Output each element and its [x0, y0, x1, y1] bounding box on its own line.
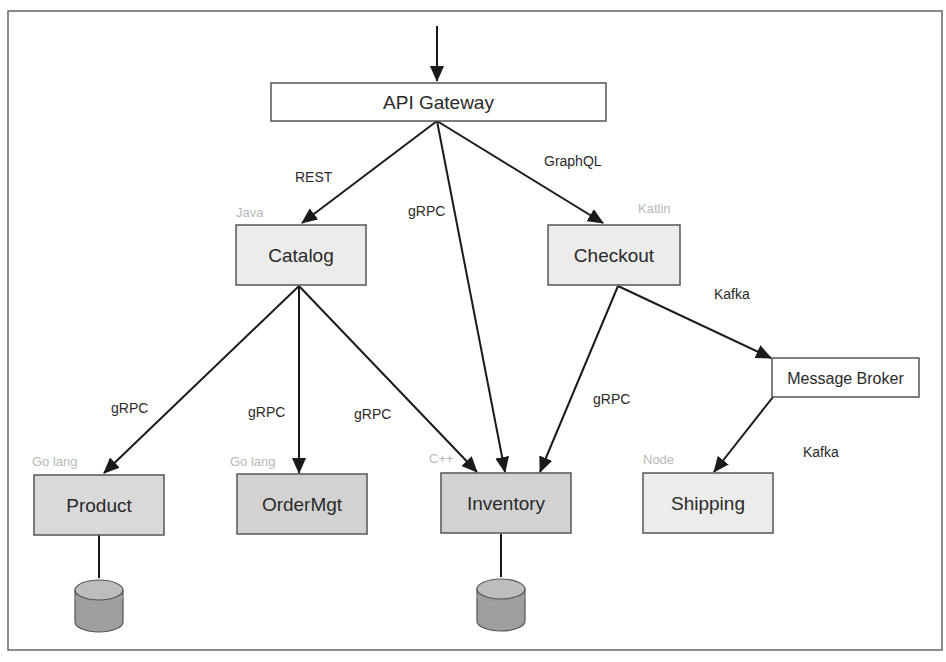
language-label-katlin: Katlin	[638, 201, 671, 216]
node-checkout[interactable]: Checkout	[548, 225, 680, 285]
edge-label-broker-shipping: Kafka	[803, 444, 839, 460]
edge-label-graphql: GraphQL	[544, 153, 602, 169]
node-shipping[interactable]: Shipping	[643, 473, 773, 533]
node-message-broker[interactable]: Message Broker	[772, 358, 919, 397]
database-icon-inventory	[477, 579, 525, 631]
edge-label-catalog-product: gRPC	[111, 400, 148, 416]
language-label-golang-product: Go lang	[32, 454, 78, 469]
node-catalog[interactable]: Catalog	[236, 225, 366, 285]
edge-label-checkout-inventory: gRPC	[593, 391, 630, 407]
node-ordermgt[interactable]: OrderMgt	[237, 474, 367, 534]
node-product[interactable]: Product	[34, 475, 164, 535]
node-label: Checkout	[574, 245, 655, 266]
node-label: Shipping	[671, 493, 745, 514]
node-label: Message Broker	[787, 370, 904, 387]
language-label-golang-ordermgt: Go lang	[230, 454, 276, 469]
edge-label-gateway-inventory: gRPC	[408, 203, 445, 219]
node-label: API Gateway	[383, 92, 494, 113]
edge-label-rest: REST	[295, 169, 333, 185]
node-label: Product	[66, 495, 132, 516]
node-api-gateway[interactable]: API Gateway	[271, 83, 606, 121]
node-label: Inventory	[467, 493, 546, 514]
edge-label-catalog-inventory: gRPC	[354, 406, 391, 422]
language-label-cpp: C++	[429, 451, 454, 466]
architecture-diagram: REST gRPC GraphQL gRPC gRPC gRPC gRPC Ka…	[0, 0, 946, 662]
database-icon-product	[75, 580, 123, 632]
language-label-node: Node	[643, 452, 674, 467]
edge-label-catalog-ordermgt: gRPC	[248, 404, 285, 420]
language-label-java: Java	[236, 205, 264, 220]
node-label: Catalog	[268, 245, 334, 266]
edge-label-checkout-broker: Kafka	[714, 286, 750, 302]
node-inventory[interactable]: Inventory	[441, 473, 571, 533]
node-label: OrderMgt	[262, 494, 343, 515]
